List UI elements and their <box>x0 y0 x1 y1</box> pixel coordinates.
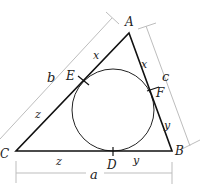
segment-label-x-AE: x <box>93 49 100 62</box>
segment-label-y-DB: y <box>132 154 140 167</box>
side-label-a: a <box>90 167 98 182</box>
segment-label-z-CE: z <box>34 108 41 121</box>
incircle-diagram: A B C D E F x x y y z z a b c <box>0 0 208 193</box>
tangent-label-D: D <box>106 158 117 172</box>
vertex-label-B: B <box>174 144 184 158</box>
tangent-label-E: E <box>65 69 75 83</box>
side-label-c: c <box>162 69 170 84</box>
tangent-label-F: F <box>155 86 165 100</box>
vertex-label-C: C <box>0 147 9 161</box>
segment-label-x-AF: x <box>141 58 148 71</box>
vertex-label-A: A <box>124 15 134 29</box>
segment-label-y-FB: y <box>163 119 171 132</box>
dimension-b <box>0 12 119 139</box>
side-label-b: b <box>47 70 55 85</box>
segment-label-z-CD: z <box>55 155 62 168</box>
